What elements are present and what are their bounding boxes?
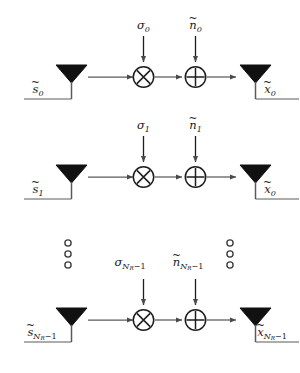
output-label-row-nr: ~xNR−1 (257, 327, 287, 339)
noise-label-row-1: ~n1 (189, 120, 202, 132)
input-label-row-0: ~s0 (32, 84, 43, 96)
gain-label-row-nr: σNR−1 (114, 257, 145, 269)
noise-label-row-0: ~n0 (189, 20, 202, 32)
tilde-accent: ~ (26, 320, 35, 331)
tx-antenna-icon-row-nr (56, 308, 87, 326)
vertical-ellipsis-left (65, 240, 71, 268)
block-diagram-figure: ~s0 σ0 ~n0 ~x0 ~s1 σ1 ~n1 ~x0 ~sNR−1 σNR… (0, 0, 300, 373)
tx-antenna-icon-row-0 (56, 65, 87, 83)
tx-antenna-icon-row-1 (56, 165, 87, 183)
tilde-accent: ~ (256, 320, 265, 331)
tilde-accent: ~ (188, 13, 197, 24)
gain-label-row-0: σ0 (137, 20, 150, 32)
gain-label-row-1: σ1 (137, 120, 150, 132)
tilde-accent: ~ (172, 250, 181, 261)
tilde-accent: ~ (31, 77, 40, 88)
tilde-accent: ~ (188, 113, 197, 124)
output-label-row-1: ~x0 (264, 184, 276, 196)
tilde-accent: ~ (31, 177, 40, 188)
tilde-accent: ~ (263, 77, 272, 88)
row-1-graphics (24, 136, 299, 199)
output-label-row-0: ~x0 (264, 84, 276, 96)
diagram-canvas (0, 0, 300, 373)
input-label-row-nr: ~sNR−1 (27, 327, 56, 339)
tilde-accent: ~ (263, 177, 272, 188)
input-label-row-1: ~s1 (32, 184, 43, 196)
vertical-ellipsis-right (227, 240, 233, 268)
noise-label-row-nr: ~nNR−1 (173, 257, 204, 269)
row-0-graphics (24, 36, 299, 99)
